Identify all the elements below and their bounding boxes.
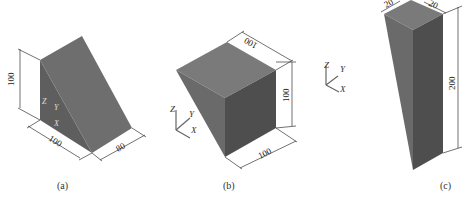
dim-b-top: 100 <box>242 35 259 51</box>
axis-x-label: X <box>339 84 346 94</box>
dim-c-top-left: 20 <box>382 0 395 10</box>
axis-y-label: Y <box>189 109 195 119</box>
axis-y-label: Y <box>340 64 346 74</box>
column-right-face <box>413 14 443 170</box>
axis-triad-b <box>176 110 190 138</box>
dim-a-width: 80 <box>114 140 127 153</box>
axis-z-label: Z <box>170 104 176 114</box>
diagram-canvas: 100 100 80 Z Y X (a) 100 100 100 <box>0 0 466 205</box>
dim-b-height: 100 <box>281 88 291 102</box>
caption-b: (b) <box>223 180 235 192</box>
figure-b: 100 100 100 Z Y X (b) <box>170 31 297 192</box>
axis-z-label: Z <box>42 97 47 106</box>
caption-c: (c) <box>440 180 451 192</box>
figure-c: 20 20 200 Z Y X (c) <box>324 0 462 192</box>
column-left-face <box>384 14 413 170</box>
dim-a-height: 100 <box>6 72 16 86</box>
dim-b-bottom: 100 <box>256 146 273 161</box>
dim-c-height: 200 <box>447 76 457 90</box>
figure-a: 100 100 80 Z Y X (a) <box>6 36 146 192</box>
caption-a: (a) <box>57 180 68 192</box>
axis-x-label: X <box>190 125 197 135</box>
axis-z-label: Z <box>324 60 330 70</box>
